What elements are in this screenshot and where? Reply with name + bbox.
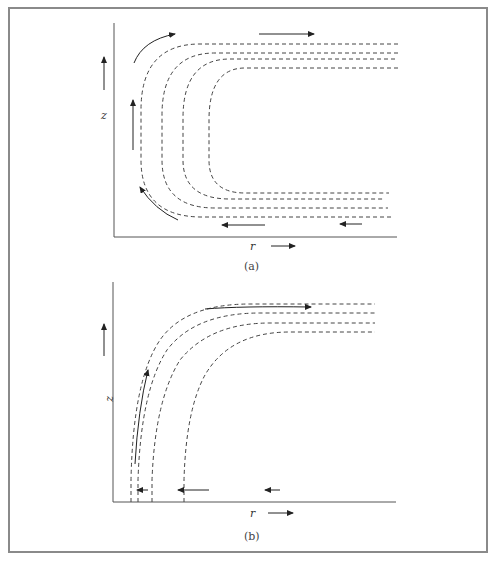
z-label-b: z [104,395,117,402]
panel-a: z r (a) [100,23,398,273]
r-label-b: r [250,507,256,520]
streamlines-a [141,44,398,217]
caption-a: (a) [244,260,259,273]
r-label-a: r [250,240,256,253]
streamlines-b [131,304,375,502]
z-label-a: z [100,109,107,122]
streamline-diagram: z r (a) z r (b) [0,0,496,563]
panel-b: z r (b) [104,282,396,543]
caption-b: (b) [244,530,260,543]
